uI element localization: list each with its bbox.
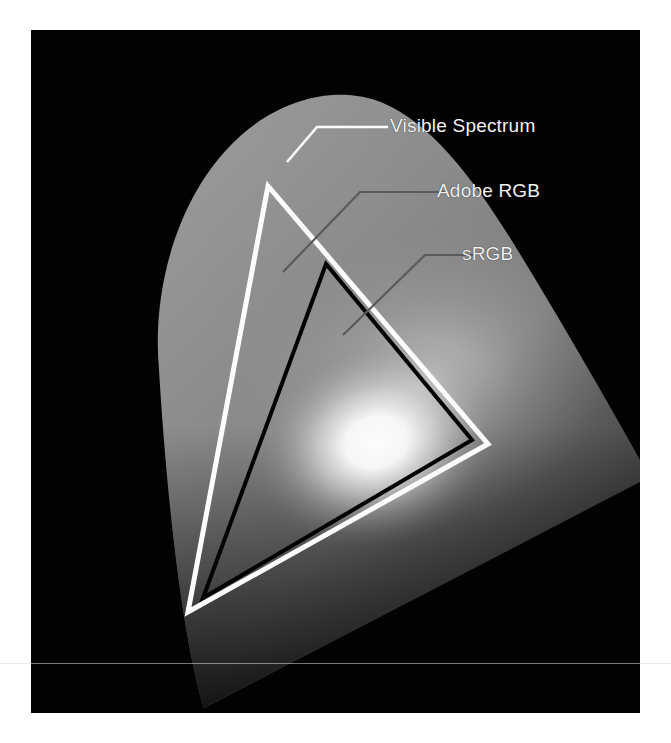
scan-artifact-line (0, 663, 671, 664)
visible-spectrum-region (31, 30, 640, 713)
figure-page: Visible Spectrum Adobe RGB sRGB (0, 0, 671, 743)
gamut-chart-svg (31, 30, 640, 713)
label-adobe-rgb: Adobe RGB (437, 181, 540, 200)
label-srgb: sRGB (462, 244, 513, 263)
chromaticity-diagram-panel (31, 30, 640, 713)
label-visible-spectrum: Visible Spectrum (390, 116, 535, 135)
